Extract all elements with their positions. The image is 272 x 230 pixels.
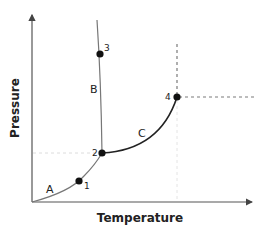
point-4 <box>173 93 180 100</box>
phase-diagram: 1 2 3 4 A B C Temperature Pressure <box>0 0 272 230</box>
curve-b-fusion <box>97 20 102 153</box>
curve-c-vaporization <box>102 97 177 153</box>
point-2-label: 2 <box>92 148 98 158</box>
point-2 <box>98 149 105 156</box>
curve-a-sublimation <box>32 153 102 202</box>
point-1 <box>75 177 82 184</box>
point-3 <box>96 50 103 57</box>
x-axis-title: Temperature <box>97 211 183 225</box>
point-4-label: 4 <box>165 92 171 102</box>
region-a-label: A <box>46 183 54 196</box>
region-b-label: B <box>90 83 98 96</box>
y-axis-title: Pressure <box>8 78 22 138</box>
point-3-label: 3 <box>104 43 110 53</box>
region-c-label: C <box>138 127 146 140</box>
point-1-label: 1 <box>84 181 90 191</box>
